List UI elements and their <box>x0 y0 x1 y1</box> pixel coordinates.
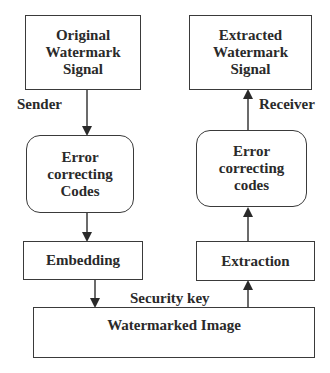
node-text-line: Error <box>219 143 285 160</box>
sender-label: Sender <box>17 96 62 113</box>
node-text-line: Watermark <box>213 44 288 61</box>
node-text-line: correcting <box>47 166 113 183</box>
node-watermarked-image: Watermarked Image <box>33 307 315 358</box>
node-error-correcting-codes-encode: Error correcting Codes <box>26 135 134 213</box>
arrow-ecc-to-extracted <box>243 89 253 130</box>
node-embedding: Embedding <box>23 241 143 280</box>
arrow-ecc-to-embedding <box>82 212 92 242</box>
node-extracted-watermark-signal: Extracted Watermark Signal <box>189 15 312 90</box>
node-extraction: Extraction <box>196 241 315 281</box>
node-text-line: Embedding <box>46 252 120 269</box>
node-text-line: Codes <box>47 183 113 200</box>
node-text-line: Error <box>47 149 113 166</box>
node-text-line: Watermark <box>46 44 121 61</box>
arrow-embedding-to-watermarked <box>90 279 100 308</box>
arrow-watermarked-to-extraction <box>243 280 253 307</box>
node-text-line: Signal <box>213 61 288 78</box>
arrow-extraction-to-ecc <box>243 207 253 241</box>
node-text-line: Extracted <box>213 27 288 44</box>
security-key-label: Security key <box>130 290 210 307</box>
node-text-line: Watermarked Image <box>107 317 241 334</box>
receiver-label: Receiver <box>259 96 315 113</box>
node-text-line: Original <box>46 27 121 44</box>
node-error-correcting-codes-decode: Error correcting codes <box>196 130 307 207</box>
arrow-original-to-ecc <box>82 89 92 136</box>
node-text-line: correcting <box>219 160 285 177</box>
node-text-line: codes <box>219 177 285 194</box>
node-original-watermark-signal: Original Watermark Signal <box>25 15 141 90</box>
node-text-line: Extraction <box>221 253 289 270</box>
node-text-line: Signal <box>46 61 121 78</box>
